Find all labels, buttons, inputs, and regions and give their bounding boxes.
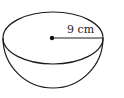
hemisphere-diagram: 9 cm [0, 0, 124, 98]
center-point [50, 36, 54, 40]
hemisphere-bowl [3, 38, 103, 88]
radius-label: 9 cm [67, 23, 95, 36]
